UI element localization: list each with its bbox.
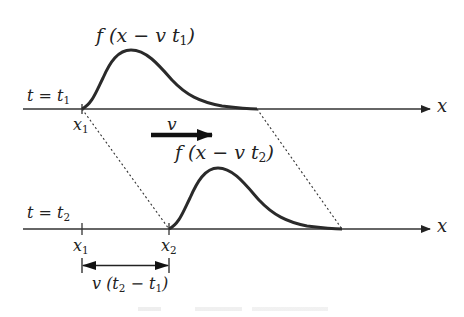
x-axis-label-t2: x	[437, 217, 447, 235]
pulse-t1	[82, 50, 257, 109]
velocity-label: v	[167, 116, 177, 133]
x-axis-label-t1: x	[437, 97, 447, 115]
pulse-label-t2: f (x − v t2)	[175, 143, 274, 164]
axis-t2	[23, 223, 430, 235]
time-label-t2: t = t2	[27, 205, 70, 222]
displacement-dimension	[82, 258, 169, 273]
displacement-label: v (t2 − t1)	[92, 276, 168, 293]
time-label-t1: t = t1	[27, 88, 70, 105]
pulse-label-t1: f (x − v t1)	[96, 26, 195, 47]
tick-label-x2-t2: x2	[161, 238, 177, 255]
pulse-t2	[169, 168, 342, 229]
figure-caption-faint	[138, 307, 328, 311]
tick-label-x1-t2: x1	[73, 238, 89, 255]
wave-diagram: f (x − v t1) t = t1 x x1 v f (x − v t2) …	[0, 0, 464, 317]
dashed-line-start	[82, 109, 169, 229]
tick-label-x1-t1: x1	[73, 117, 89, 134]
